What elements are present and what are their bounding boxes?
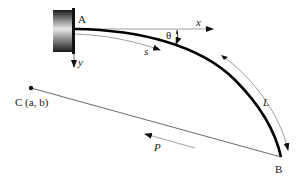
label-point-a: A [78, 14, 86, 25]
label-axis-x: x [196, 17, 201, 28]
label-point-b: B [275, 164, 282, 175]
label-angle-theta: θ [166, 30, 171, 41]
label-axis-y: y [78, 57, 83, 68]
label-length-l: L [263, 97, 269, 108]
force-p-arrow [145, 134, 195, 148]
diagram-canvas [0, 0, 305, 177]
label-force-p: P [154, 142, 161, 153]
beam-curve [75, 29, 281, 157]
beam-diagram: A x y s θ L C (a, b) P B [0, 0, 305, 177]
point-c-dot [29, 86, 33, 90]
wall-support [53, 8, 75, 54]
label-point-c: C (a, b) [15, 97, 48, 108]
label-arc-length-s: s [144, 46, 148, 57]
